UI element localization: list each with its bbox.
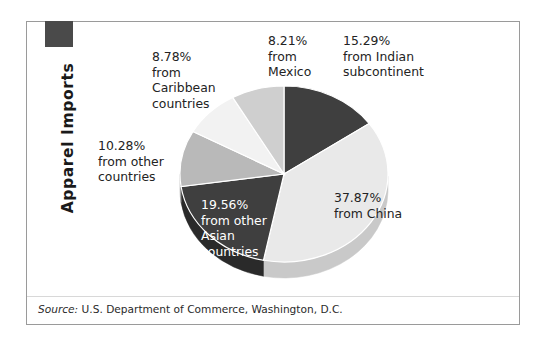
slice-label-indian-subcontinent: 15.29% from Indian subcontinent [343,33,424,80]
slice-label-other-asian-countries: 19.56% from other Asian countries [201,197,267,259]
page-title: Apparel Imports [55,38,81,238]
slice-label-other-countries: 10.28% from other countries [98,138,164,185]
source-label: Source: [38,303,78,315]
slice-label-caribbean-countries: 8.78% from Caribbean countries [152,49,216,111]
slice-label-mexico: 8.21% from Mexico [268,33,311,80]
source-text: U.S. Department of Commerce, Washington,… [78,303,343,315]
source-note: Source: U.S. Department of Commerce, Was… [38,303,343,315]
source-divider [27,296,519,297]
slice-label-china: 37.87% from China [334,190,402,221]
apparel-imports-figure: Apparel Imports 8.21% from Mexico 15.29%… [0,0,555,351]
